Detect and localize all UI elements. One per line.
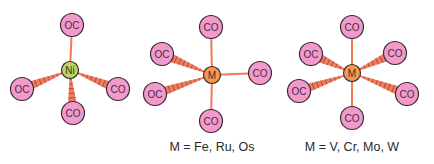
metal-center: M bbox=[344, 65, 361, 82]
metal-center: Ni bbox=[62, 62, 79, 79]
ligand-label: OC bbox=[15, 84, 30, 95]
ligand-oc: OC bbox=[11, 78, 34, 101]
ligand-label: OC bbox=[292, 86, 307, 97]
ligand-label: OC bbox=[155, 49, 170, 60]
ligand-label: CO bbox=[388, 48, 403, 59]
ligand-label: CO bbox=[204, 116, 219, 127]
ligand-label: CO bbox=[253, 68, 268, 79]
ligand-co: CO bbox=[341, 16, 364, 39]
metal-center: M bbox=[204, 67, 221, 84]
ligand-oc: OC bbox=[288, 80, 311, 103]
ligand-label: CO bbox=[345, 113, 360, 124]
ligand-label: CO bbox=[111, 84, 126, 95]
ligand-label: CO bbox=[66, 108, 81, 119]
ligand-co: CO bbox=[62, 102, 85, 125]
wedge-hash bbox=[68, 98, 75, 99]
ligand-oc: OC bbox=[151, 43, 174, 66]
ligand-co: CO bbox=[200, 110, 223, 133]
ligand-label: OC bbox=[65, 20, 80, 31]
ligand-label: CO bbox=[204, 22, 219, 33]
ligand-co: CO bbox=[341, 107, 364, 130]
structure-caption: M = Fe, Ru, Os bbox=[169, 140, 254, 154]
captions-layer: M = Fe, Ru, OsM = V, Cr, Mo, W bbox=[169, 140, 399, 154]
ligand-label: CO bbox=[400, 89, 415, 100]
ligand-oc: OC bbox=[300, 43, 323, 66]
metal-label: Ni bbox=[65, 65, 74, 76]
ligand-label: CO bbox=[345, 22, 360, 33]
metal-carbonyl-diagram: OCOCCOCONiCOOCOCCOCOMCOOCCOOCCOCOM M = F… bbox=[0, 0, 434, 164]
ligand-oc: OC bbox=[61, 14, 84, 37]
ligand-label: OC bbox=[148, 89, 163, 100]
structure-caption: M = V, Cr, Mo, W bbox=[305, 140, 400, 154]
ligand-co: CO bbox=[249, 62, 272, 85]
atoms-layer: OCOCCOCONiCOOCOCCOCOMCOOCCOOCCOCOM bbox=[11, 14, 419, 133]
ligand-co: CO bbox=[384, 42, 407, 65]
ligand-co: CO bbox=[396, 83, 419, 106]
metal-label: M bbox=[348, 68, 356, 79]
metal-label: M bbox=[208, 70, 216, 81]
ligand-co: CO bbox=[200, 16, 223, 39]
ligand-oc: OC bbox=[144, 83, 167, 106]
ligand-co: CO bbox=[107, 78, 130, 101]
ligand-label: OC bbox=[304, 49, 319, 60]
